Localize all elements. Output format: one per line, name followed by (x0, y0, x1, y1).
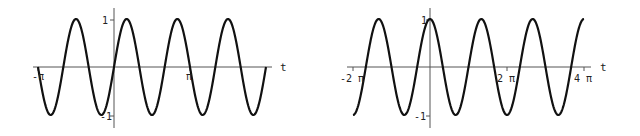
right-tick-label-2pi: 2 π (497, 73, 515, 84)
left-y-tick-label-bottom: -1 (100, 111, 112, 122)
left-tick-label-neg-pi: -π (32, 71, 44, 82)
right-tick-label-neg-2pi: -2 π (340, 73, 364, 84)
left-tick-label-pi: π (186, 71, 192, 82)
right-x-axis-label: t (600, 61, 607, 74)
right-plot: t -2 π 2 π 4 π 1 -1 (340, 8, 607, 128)
left-plot: t -π π 1 -1 (32, 8, 287, 128)
right-y-tick-label-top: 1 (421, 15, 427, 26)
right-tick-label-4pi: 4 π (574, 73, 592, 84)
figure: t -π π 1 -1 t -2 π 2 π 4 π 1 -1 (0, 0, 640, 136)
left-y-tick-label-top: 1 (102, 15, 108, 26)
left-x-axis-label: t (280, 61, 287, 74)
right-y-tick-label-bottom: -1 (414, 111, 426, 122)
